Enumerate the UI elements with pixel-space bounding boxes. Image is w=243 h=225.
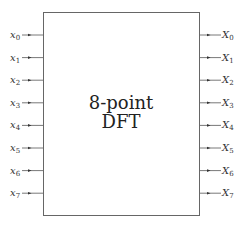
output-label: X3 xyxy=(221,97,234,110)
output-X2: X2 xyxy=(200,74,234,87)
block-title-line1: 8-point xyxy=(89,92,154,113)
input-x1: x1 xyxy=(10,52,43,65)
input-x4: x4 xyxy=(10,119,43,132)
output-label: X1 xyxy=(221,52,234,65)
input-x5: x5 xyxy=(10,142,43,155)
input-x2: x2 xyxy=(10,74,43,87)
output-X7: X7 xyxy=(200,187,234,200)
input-label: x4 xyxy=(10,119,21,132)
input-label: x2 xyxy=(10,74,20,87)
arrow-right-icon xyxy=(28,79,32,82)
input-label: x3 xyxy=(10,97,20,110)
output-X5: X5 xyxy=(200,142,234,155)
arrow-right-icon xyxy=(28,34,32,37)
arrow-right-icon xyxy=(28,192,32,195)
input-label: x6 xyxy=(10,165,21,178)
arrow-right-icon xyxy=(207,79,211,82)
input-x6: x6 xyxy=(10,165,43,178)
arrow-right-icon xyxy=(28,56,32,59)
arrow-right-icon xyxy=(28,147,32,150)
arrow-right-icon xyxy=(207,34,211,37)
dft-diagram: 8-point DFT x0 x1 x2 x3 x4 xyxy=(0,0,243,225)
block-title-line2: DFT xyxy=(102,111,141,132)
output-X3: X3 xyxy=(200,97,234,110)
input-label: x7 xyxy=(10,187,20,200)
output-label: X2 xyxy=(221,74,234,87)
arrow-right-icon xyxy=(28,102,32,105)
input-x0: x0 xyxy=(10,29,43,42)
output-label: X4 xyxy=(221,119,234,132)
arrow-right-icon xyxy=(28,124,32,127)
arrow-right-icon xyxy=(207,169,211,172)
output-label: X5 xyxy=(221,142,234,155)
output-label: X6 xyxy=(221,165,234,178)
arrow-right-icon xyxy=(207,102,211,105)
arrow-right-icon xyxy=(28,169,32,172)
input-ports: x0 x1 x2 x3 x4 x5 x6 xyxy=(10,29,43,200)
output-label: X7 xyxy=(221,187,234,200)
arrow-right-icon xyxy=(207,192,211,195)
output-X0: X0 xyxy=(200,29,234,42)
arrow-right-icon xyxy=(207,124,211,127)
input-label: x5 xyxy=(10,142,20,155)
output-X1: X1 xyxy=(200,52,234,65)
arrow-right-icon xyxy=(207,56,211,59)
arrow-right-icon xyxy=(207,147,211,150)
input-x7: x7 xyxy=(10,187,43,200)
output-X6: X6 xyxy=(200,165,234,178)
output-ports: X0 X1 X2 X3 X4 X5 X6 xyxy=(200,29,234,200)
output-X4: X4 xyxy=(200,119,234,132)
output-label: X0 xyxy=(221,29,234,42)
input-x3: x3 xyxy=(10,97,43,110)
input-label: x0 xyxy=(10,29,20,42)
input-label: x1 xyxy=(10,52,20,65)
